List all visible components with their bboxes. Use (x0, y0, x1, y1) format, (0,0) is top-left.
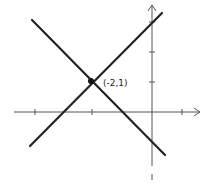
coordinate-plane: (-2,1) (0, 0, 216, 184)
intersection-label: (-2,1) (103, 78, 128, 88)
intersection-point (88, 78, 94, 84)
line-decreasing (32, 20, 165, 155)
line-increasing (30, 13, 162, 146)
